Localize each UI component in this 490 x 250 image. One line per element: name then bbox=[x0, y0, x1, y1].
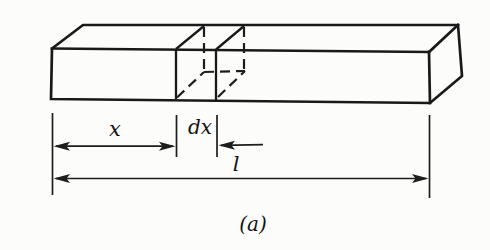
dimension-dx: dx bbox=[188, 115, 263, 150]
label-dx: dx bbox=[188, 115, 212, 139]
figure-canvas: x dx l (a) bbox=[0, 0, 490, 250]
bar-right-front-edge bbox=[429, 52, 430, 103]
label-l: l bbox=[233, 152, 240, 176]
bar-element-diagram: x dx l (a) bbox=[0, 0, 490, 250]
bar-outline bbox=[51, 25, 462, 103]
cut1-top-line bbox=[176, 26, 204, 49]
bar-right-top-edge bbox=[429, 25, 458, 52]
figure-caption: (a) bbox=[239, 212, 267, 236]
cut1-bottom-hidden-line bbox=[177, 72, 204, 98]
element-bottom-back-hidden-line bbox=[204, 71, 245, 72]
bar-front-top-edge bbox=[52, 49, 429, 53]
cut2-top-line bbox=[216, 26, 244, 50]
element-hidden-edges bbox=[177, 27, 245, 98]
element-cut-lines bbox=[176, 26, 244, 100]
bar-silhouette bbox=[51, 25, 462, 103]
dimension-x: x bbox=[54, 117, 176, 151]
label-x: x bbox=[109, 117, 121, 141]
dimension-l: l bbox=[54, 152, 429, 183]
cut2-bottom-hidden-line bbox=[218, 71, 245, 97]
